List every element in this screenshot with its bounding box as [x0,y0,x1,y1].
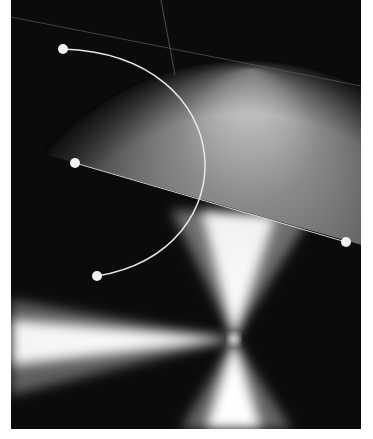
gradient-artwork [11,0,361,429]
line-end-handle[interactable] [341,237,351,247]
curve-start-handle[interactable] [58,44,68,54]
gradient-canvas[interactable] [11,0,361,429]
line-start-handle[interactable] [70,158,80,168]
curve-end-handle[interactable] [92,271,102,281]
vertical-guide-line [161,0,175,75]
